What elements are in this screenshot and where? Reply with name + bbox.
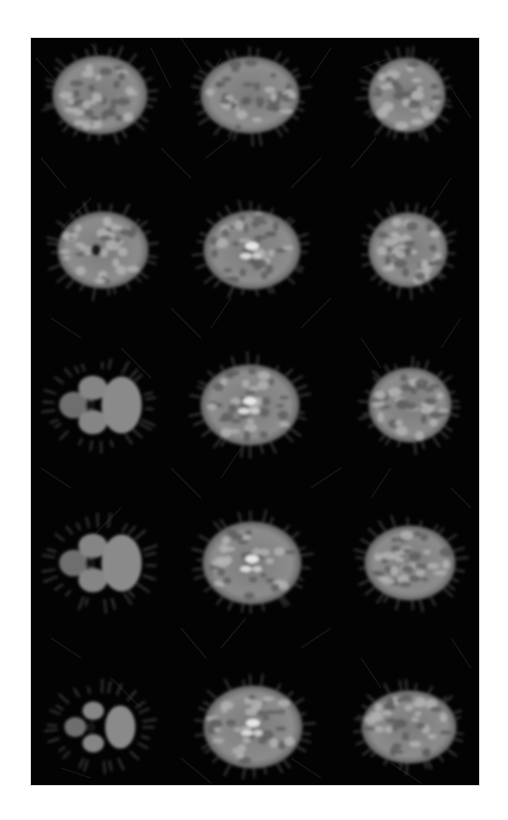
mri-slice-r5-c2 (191, 673, 315, 781)
mri-montage-panel (31, 38, 479, 785)
mri-slice-r5-c3 (349, 678, 469, 776)
mri-slice-r4-c1 (40, 513, 160, 613)
mri-slice-r3-c3 (356, 355, 464, 455)
mri-slice-r3-c2 (188, 352, 312, 458)
mri-slice-r4-c3 (352, 513, 468, 613)
mri-slice-r1-c3 (356, 45, 458, 145)
mri-slice-r2-c3 (356, 200, 460, 300)
mri-slice-r1-c2 (188, 44, 312, 146)
mri-slice-r3-c1 (40, 355, 160, 455)
mri-slice-r4-c2 (190, 509, 314, 617)
mri-slice-r5-c1 (43, 679, 157, 775)
mri-slice-r2-c1 (45, 199, 161, 301)
mri-slice-r2-c2 (191, 198, 313, 302)
mri-slice-r1-c1 (40, 43, 160, 147)
